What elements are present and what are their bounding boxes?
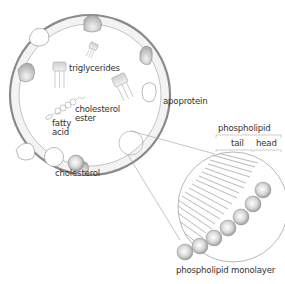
label-phospholipid: phospholipid	[218, 123, 270, 133]
triglyceride-molecule	[53, 62, 66, 88]
apoprotein-shape	[142, 83, 156, 102]
apoprotein-shape	[16, 143, 35, 160]
apoprotein-shape	[140, 46, 152, 64]
label-head: head	[256, 138, 277, 148]
label-tail: tail	[231, 138, 244, 148]
apoprotein-shape	[84, 15, 102, 32]
apoprotein-shape	[18, 63, 35, 82]
apoprotein-shape	[30, 28, 49, 46]
label-cholesterol-ester-line2: ester	[75, 113, 97, 123]
lipoprotein-particle: triglycerides cholesterol ester fatty ac…	[10, 15, 208, 178]
label-triglycerides: triglycerides	[69, 63, 120, 73]
phospholipid-bracket: phospholipid tail head	[216, 123, 281, 152]
lipoprotein-diagram: triglycerides cholesterol ester fatty ac…	[0, 0, 285, 284]
label-apoprotein: apoprotein	[163, 96, 208, 106]
label-phospholipid-monolayer: phospholipid monolayer	[176, 265, 276, 275]
shell-lipid	[45, 148, 64, 167]
label-fatty-acid-line2: acid	[52, 127, 69, 137]
label-cholesterol: cholesterol	[55, 168, 100, 178]
phospholipid-monolayer-zoom	[160, 152, 285, 262]
